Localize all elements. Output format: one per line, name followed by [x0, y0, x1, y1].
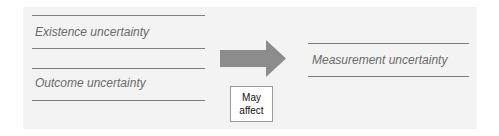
outcome-bottom-rule — [32, 100, 205, 101]
arrow-right-icon — [220, 40, 286, 77]
existence-uncertainty-label: Existence uncertainty — [35, 25, 149, 39]
existence-top-rule — [32, 15, 205, 16]
measurement-top-rule — [308, 43, 469, 44]
measurement-uncertainty-label: Measurement uncertainty — [312, 53, 447, 67]
outcome-uncertainty-label: Outcome uncertainty — [35, 76, 146, 90]
note-line-2: affect — [231, 104, 272, 117]
note-line-1: May — [231, 91, 272, 104]
may-affect-note: May affect — [230, 86, 273, 122]
measurement-bottom-rule — [308, 76, 469, 77]
existence-bottom-rule — [32, 48, 205, 49]
outcome-top-rule — [32, 68, 205, 69]
